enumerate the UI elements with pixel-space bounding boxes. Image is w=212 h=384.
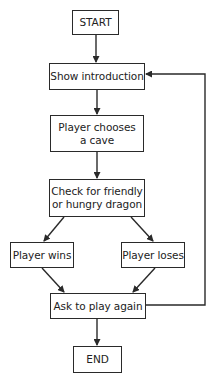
node-player-loses: Player loses [121,242,185,268]
arrow-check-to-wins [44,217,64,241]
node-ask-play-again: Ask to play again [50,293,146,319]
arrow-again-to-intro-loop [146,74,205,305]
node-end: END [73,346,122,373]
arrow-loses-to-again [133,268,155,292]
arrow-check-to-loses [131,217,153,241]
node-start: START [72,10,119,35]
node-player-wins: Player wins [10,242,74,268]
node-show-introduction: Show introduction [49,63,145,90]
node-check-dragon: Check for friendly or hungry dragon [49,179,145,217]
arrow-wins-to-again [42,268,64,292]
node-player-chooses-cave: Player chooses a cave [50,115,144,152]
